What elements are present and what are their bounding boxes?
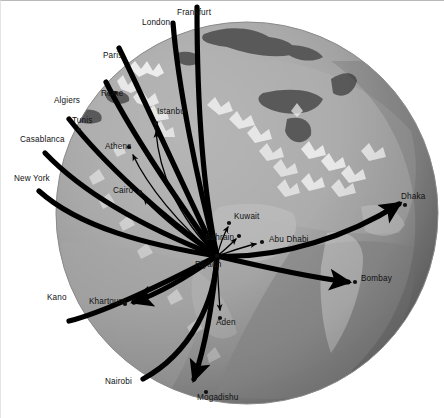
city-dot-kuwait [227, 221, 231, 225]
city-label-istanbul: Istanbul [157, 107, 187, 116]
route-map-svg: FrankfurtLondonParisRomeAlgiersTunisCasa… [1, 1, 444, 418]
city-label-khartoum: Khartoum [89, 297, 126, 306]
city-label-kuwait: Kuwait [234, 212, 260, 221]
city-label-cairo: Cairo [113, 186, 134, 195]
figure-canvas: FrankfurtLondonParisRomeAlgiersTunisCasa… [0, 0, 444, 418]
city-label-dhaka: Dhaka [401, 192, 426, 201]
city-dot-abu-dhabi [260, 240, 264, 244]
city-label-bombay: Bombay [361, 274, 393, 283]
city-dot-dhaka [403, 203, 407, 207]
city-dot-bahrain [237, 234, 241, 238]
city-dot-hub-riyadh [215, 254, 219, 258]
city-label-athens: Athens [105, 142, 131, 151]
city-dot-istanbul [154, 121, 158, 125]
city-label-frankfurt: Frankfurt [177, 8, 212, 17]
city-label-hub-riyadh: Riyadh [195, 260, 222, 269]
city-label-casablanca: Casablanca [20, 135, 65, 144]
city-label-new-york: New York [14, 174, 51, 183]
city-label-london: London [142, 18, 171, 27]
city-label-aden: Aden [216, 318, 236, 327]
city-label-tunis: Tunis [72, 116, 92, 125]
city-label-algiers: Algiers [54, 96, 80, 105]
city-dot-bombay [353, 280, 357, 284]
city-label-kano: Kano [47, 293, 67, 302]
city-label-paris: Paris [103, 51, 122, 60]
globe-stage: FrankfurtLondonParisRomeAlgiersTunisCasa… [1, 1, 444, 418]
city-dot-cairo [138, 190, 142, 194]
city-label-mogadishu: Mogadishu [197, 393, 239, 402]
city-label-abu-dhabi: Abu Dhabi [269, 235, 309, 244]
city-label-nairobi: Nairobi [105, 377, 132, 386]
city-label-bahrain: Bahrain [205, 233, 235, 242]
city-dot-tunis [77, 128, 81, 132]
city-label-rome: Rome [101, 89, 124, 98]
